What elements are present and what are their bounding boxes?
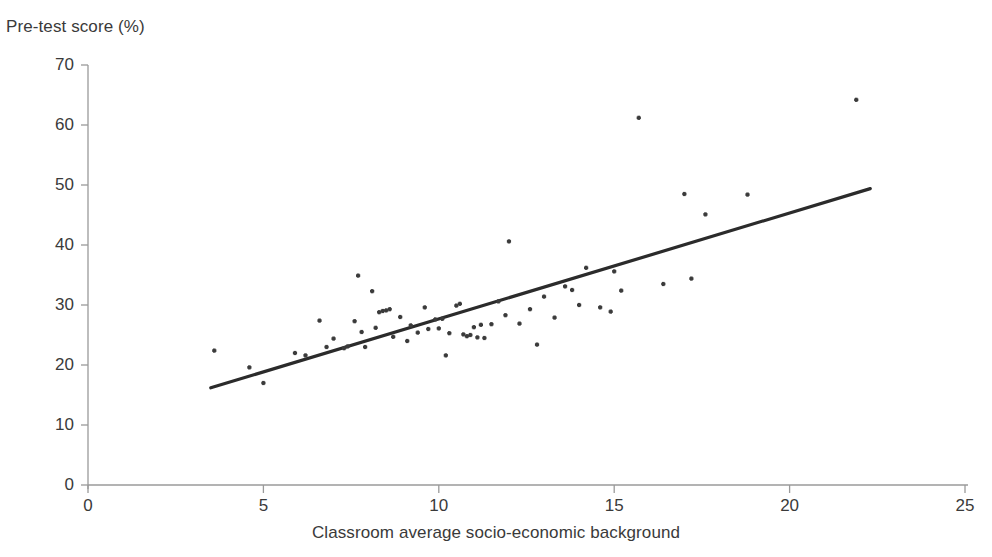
data-point-bar-v [441,317,444,321]
data-point-bar-v [437,326,440,330]
data-point-bar-v [445,353,448,357]
data-point [356,274,360,278]
data-point-bar-v [332,337,335,341]
y-tick-label: 10 [28,415,74,435]
data-point [374,326,378,330]
data-point-bar-v [490,322,493,326]
data-point [619,289,623,293]
data-point [212,349,216,353]
data-point-bar-v [599,305,602,309]
data-point-bar-v [434,317,437,321]
data-point-bar-v [529,307,532,311]
data-point-bar-v [462,332,465,336]
y-tick-label: 0 [28,475,74,495]
data-point-bar-v [536,343,539,347]
data-point [570,288,574,292]
data-point-bar-v [399,315,402,319]
data-point-bar-v [571,288,574,292]
data-point [303,353,307,357]
data-point [542,295,546,299]
data-point-bar-v [704,212,707,216]
data-point [363,345,367,349]
data-point [745,193,749,197]
data-point-bar-v [353,319,356,323]
data-point [398,315,402,319]
data-point [489,322,493,326]
data-point-bar-v [325,345,328,349]
data-point [475,335,479,339]
data-point-bar-v [318,319,321,323]
data-point-bar-v [683,192,686,196]
data-point [854,98,858,102]
data-point-bar-v [294,351,297,355]
data-point-bar-v [371,289,374,293]
data-point-bar-v [585,266,588,270]
data-point-bar-v [213,349,216,353]
data-point-bar-v [469,333,472,337]
data-point [447,331,451,335]
data-point [324,345,328,349]
data-point-bar-v [637,116,640,120]
data-point [552,316,556,320]
data-point [503,313,507,317]
data-point-bar-v [662,282,665,286]
data-point-bar-v [423,305,426,309]
plot-area [0,0,992,557]
data-point [426,327,430,331]
data-point-bar-v [392,335,395,339]
y-tick-label: 30 [28,295,74,315]
x-tick-label: 15 [605,496,624,516]
y-tick-label: 60 [28,115,74,135]
data-point [437,326,441,330]
data-point-bar-v [388,307,391,311]
data-point-bar-v [497,299,500,303]
trendline [211,189,871,388]
data-point [517,322,521,326]
data-point-bar-v [466,334,469,338]
data-point-bar-v [343,346,346,350]
data-point [261,381,265,385]
y-tick-label: 50 [28,175,74,195]
axes [81,65,968,493]
data-point-bar-v [409,323,412,327]
data-point [482,336,486,340]
data-point-bar-v [476,335,479,339]
data-point [584,266,588,270]
data-point [703,212,707,216]
data-point [661,282,665,286]
data-point [535,343,539,347]
y-tick-label: 20 [28,355,74,375]
data-point [609,310,613,314]
y-tick-label: 70 [28,55,74,75]
x-tick-label: 0 [83,496,92,516]
data-point [331,337,335,341]
data-point [598,305,602,309]
data-point-bar-v [613,269,616,273]
data-point [353,319,357,323]
x-tick-label: 25 [956,496,975,516]
data-point-bar-v [609,310,612,314]
data-point-bar-v [578,303,581,307]
data-point-bar-v [543,295,546,299]
data-point [423,305,427,309]
data-point-bar-v [690,277,693,281]
data-point-bar-v [346,344,349,348]
data-point-bar-v [385,308,388,312]
data-point [293,351,297,355]
data-point [507,239,511,243]
data-point [247,365,251,369]
x-tick-label: 5 [259,496,268,516]
y-tick-label: 40 [28,235,74,255]
data-point [689,277,693,281]
data-point-bar-v [248,365,251,369]
data-point-bar-v [855,98,858,102]
data-point-bar-v [416,331,419,335]
data-point-bar-v [473,325,476,329]
scatter-chart: Pre-test score (%) Classroom average soc… [0,0,992,557]
data-point-bar-v [553,316,556,320]
data-point-bar-v [364,345,367,349]
data-point-bar-v [508,239,511,243]
regression-line [211,189,871,388]
data-point [370,289,374,293]
data-point [360,330,364,334]
